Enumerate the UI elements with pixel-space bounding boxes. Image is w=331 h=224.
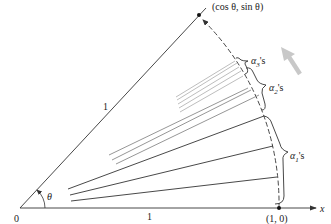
label-cos-sin: (cos θ, sin θ) [212,1,263,13]
direction-arrow-icon [281,47,300,74]
svg-text:α1's: α1's [290,150,305,164]
svg-text:α3's: α3's [251,55,266,69]
angle-sum-diagram: (cos θ, sin θ) (1, 0) 0 x 1 1 θ α1's α2'… [0,0,331,224]
point-cos-sin [197,13,201,17]
radius-line [20,8,206,208]
label-one-zero: (1, 0) [266,213,288,224]
alpha3-brace [236,58,248,74]
label-alpha1: α1's [290,150,305,164]
label-x-axis: x [319,203,325,214]
label-base: 1 [147,211,152,222]
alpha2-brace [246,68,266,110]
point-one-zero [277,206,281,210]
label-radius: 1 [103,101,108,112]
label-origin: 0 [14,213,19,224]
label-alpha3: α3's [251,55,266,69]
label-theta: θ [47,191,52,202]
theta-arc [37,190,45,208]
alpha1-brace [264,116,288,204]
alpha1-segments [68,116,277,201]
alpha3-segments [176,61,243,112]
unit-arc-dashed [203,20,279,208]
svg-text:α2's: α2's [269,82,284,96]
label-alpha2: α2's [269,82,284,96]
